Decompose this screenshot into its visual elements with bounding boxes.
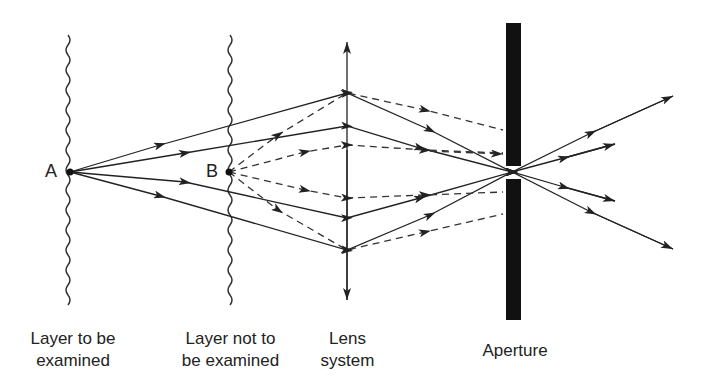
label-line: Layer not to	[163, 328, 298, 350]
solid-rays	[70, 93, 673, 250]
point-a-label: A	[45, 161, 57, 182]
label-line: examined	[8, 350, 138, 372]
label-aperture: Aperture	[460, 340, 570, 362]
diagram-canvas: A B Layer to be examined Layer not to be…	[0, 0, 705, 387]
label-line: be examined	[163, 350, 298, 372]
label-line: system	[305, 350, 390, 372]
label-line: Layer to be	[8, 328, 138, 350]
dashed-rays	[229, 93, 503, 250]
label-lens-system: Lens system	[305, 328, 390, 372]
aperture-lower	[506, 179, 521, 320]
point-b-label: B	[206, 161, 218, 182]
label-layer-examined: Layer to be examined	[8, 328, 138, 372]
aperture-upper	[506, 23, 521, 166]
label-line: Lens	[305, 328, 390, 350]
label-layer-not-examined: Layer not to be examined	[163, 328, 298, 372]
point-b-dot	[226, 169, 233, 176]
point-a-dot	[67, 169, 74, 176]
